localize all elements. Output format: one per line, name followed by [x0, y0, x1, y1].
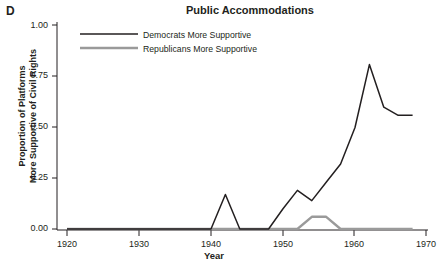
- series-line-democrats: [67, 65, 413, 229]
